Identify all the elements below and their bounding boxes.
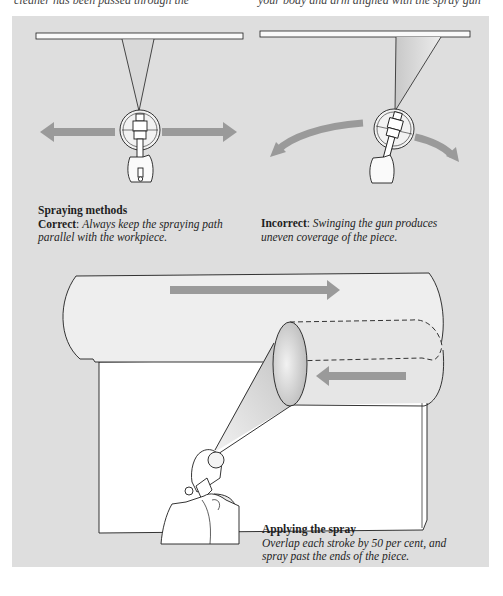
caption-label: Correct bbox=[38, 218, 76, 230]
caption-correct: Spraying methods Correct: Always keep th… bbox=[38, 204, 238, 245]
workpiece-bar bbox=[36, 33, 243, 39]
caption-incorrect: Incorrect: Swinging the gun produces une… bbox=[261, 217, 466, 244]
caption-separator: : bbox=[307, 217, 310, 229]
spray-gun-icon bbox=[120, 110, 160, 182]
caption-applying: Applying the spray Overlap each stroke b… bbox=[262, 523, 470, 564]
swinging-arc-arrow-icon bbox=[270, 123, 459, 162]
workpiece-bar bbox=[260, 31, 470, 37]
correct-method-figure bbox=[36, 33, 243, 182]
incorrect-method-figure bbox=[260, 31, 470, 183]
spraying-illustrations bbox=[0, 0, 503, 596]
applying-spray-figure bbox=[63, 273, 444, 544]
caption-heading: Applying the spray bbox=[262, 523, 470, 537]
caption-text: Overlap each stroke by 50 per cent, and … bbox=[262, 537, 446, 563]
spray-gun-icon bbox=[370, 109, 414, 183]
spray-pattern-ellipse bbox=[273, 322, 307, 406]
caption-label: Incorrect bbox=[261, 217, 307, 229]
caption-heading: Spraying methods bbox=[38, 204, 238, 218]
caption-separator: : bbox=[76, 218, 79, 230]
